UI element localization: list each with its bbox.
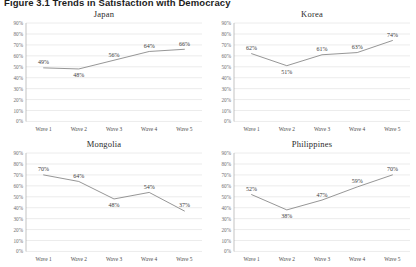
data-label: 52% [246,186,257,192]
x-axis-tick: Wave 3 [106,256,122,262]
x-axis-tick: Wave 5 [176,256,192,262]
y-axis-tick: 50% [221,193,231,199]
x-axis-tick: Wave 3 [106,126,122,132]
y-axis-tick: 40% [13,204,23,210]
y-axis-tick: 90% [13,150,23,156]
plot-area-japan: 0%10%20%30%40%50%60%70%80%90%49%48%56%64… [0,8,208,138]
x-axis-tick: Wave 2 [279,256,295,262]
figure-root: Figure 3.1 Trends in Satisfaction with D… [0,0,416,267]
y-axis-tick: 0% [224,248,232,254]
data-label: 51% [281,69,292,75]
y-axis-tick: 80% [221,160,231,166]
y-axis-tick: 70% [13,171,23,177]
x-axis-tick: Wave 3 [314,256,330,262]
data-label: 56% [109,52,120,58]
y-axis-tick: 0% [16,248,24,254]
plot-area-korea: 0%10%20%30%40%50%60%70%80%90%62%51%61%63… [208,8,416,138]
data-label: 70% [38,166,49,172]
y-axis-tick: 20% [13,97,23,103]
x-axis-tick: Wave 3 [314,126,330,132]
data-label: 70% [387,166,398,172]
data-label: 37% [179,202,190,208]
data-line [252,41,393,66]
y-axis-tick: 40% [13,75,23,81]
x-axis-tick: Wave 4 [349,256,365,262]
x-axis-tick: Wave 1 [243,126,259,132]
plot-area-mongolia: 0%10%20%30%40%50%60%70%80%90%70%64%48%54… [0,138,208,267]
x-axis-tick: Wave 2 [71,256,87,262]
data-label: 59% [352,178,363,184]
y-axis-tick: 90% [221,20,231,26]
x-axis-tick: Wave 1 [243,256,259,262]
x-axis-tick: Wave 4 [349,126,365,132]
y-axis-tick: 80% [221,31,231,37]
y-axis-tick: 50% [13,64,23,70]
data-label: 64% [144,43,155,49]
y-axis-tick: 90% [221,150,231,156]
data-label: 48% [73,72,84,78]
x-axis-tick: Wave 5 [176,126,192,132]
data-label: 54% [144,183,155,189]
y-axis-tick: 60% [13,182,23,188]
y-axis-tick: 10% [221,108,231,114]
data-label: 63% [352,44,363,50]
figure-title: Figure 3.1 Trends in Satisfaction with D… [4,0,231,8]
y-axis-tick: 70% [221,42,231,48]
y-axis-tick: 0% [16,118,24,124]
x-axis-tick: Wave 2 [71,126,87,132]
x-axis-tick: Wave 5 [384,126,400,132]
y-axis-tick: 60% [13,53,23,59]
y-axis-tick: 20% [221,97,231,103]
data-label: 62% [246,45,257,51]
y-axis-tick: 0% [224,118,232,124]
y-axis-tick: 30% [221,86,231,92]
panel-mongolia: Mongolia 0%10%20%30%40%50%60%70%80%90%70… [0,138,208,267]
data-label: 61% [317,46,328,52]
y-axis-tick: 20% [13,226,23,232]
y-axis-tick: 30% [13,86,23,92]
data-label: 47% [317,191,328,197]
y-axis-tick: 40% [221,75,231,81]
panel-japan: Japan 0%10%20%30%40%50%60%70%80%90%49%48… [0,8,208,138]
y-axis-tick: 20% [221,226,231,232]
y-axis-tick: 30% [221,215,231,221]
y-axis-tick: 60% [221,182,231,188]
data-label: 74% [387,32,398,38]
y-axis-tick: 80% [13,160,23,166]
y-axis-tick: 80% [13,31,23,37]
data-label: 64% [73,172,84,178]
y-axis-tick: 60% [221,53,231,59]
panel-philippines: Philippines 0%10%20%30%40%50%60%70%80%90… [208,138,416,267]
data-label: 66% [179,41,190,47]
y-axis-tick: 10% [13,237,23,243]
data-label: 49% [38,59,49,65]
panel-korea: Korea 0%10%20%30%40%50%60%70%80%90%62%51… [208,8,416,138]
x-axis-tick: Wave 1 [35,126,51,132]
y-axis-tick: 50% [13,193,23,199]
plot-area-philippines: 0%10%20%30%40%50%60%70%80%90%52%38%47%59… [208,138,416,267]
data-label: 38% [281,213,292,219]
y-axis-tick: 10% [13,108,23,114]
y-axis-tick: 30% [13,215,23,221]
x-axis-tick: Wave 2 [279,126,295,132]
x-axis-tick: Wave 5 [384,256,400,262]
y-axis-tick: 90% [13,20,23,26]
x-axis-tick: Wave 1 [35,256,51,262]
x-axis-tick: Wave 4 [141,126,157,132]
x-axis-tick: Wave 4 [141,256,157,262]
y-axis-tick: 10% [221,237,231,243]
y-axis-tick: 40% [221,204,231,210]
data-label: 48% [109,202,120,208]
y-axis-tick: 70% [221,171,231,177]
y-axis-tick: 50% [221,64,231,70]
y-axis-tick: 70% [13,42,23,48]
panel-grid: Japan 0%10%20%30%40%50%60%70%80%90%49%48… [0,8,416,267]
